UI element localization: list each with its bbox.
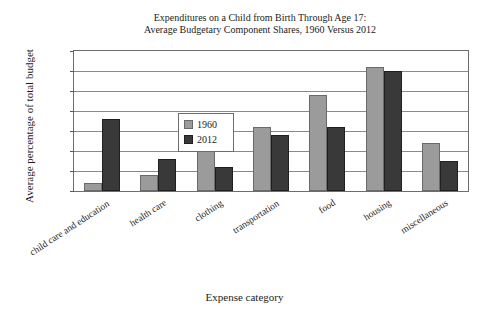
x-axis-category-label: food [317, 198, 337, 216]
x-axis-category-label: health care [128, 198, 168, 229]
bar-2012 [271, 135, 289, 191]
x-axis-category-label: child care and education [28, 198, 111, 257]
bar-1960 [422, 143, 440, 191]
bar-1960 [309, 95, 327, 191]
legend-label-1960: 1960 [197, 120, 217, 130]
bar-2012 [158, 159, 176, 191]
x-axis-title: Expense category [0, 291, 489, 303]
x-axis-category-label: miscellaneous [399, 198, 450, 236]
bar-2012 [440, 161, 458, 191]
chart-figure: Expenditures on a Child from Birth Throu… [0, 0, 489, 323]
chart-title-line-2: Average Budgetary Component Shares, 1960… [60, 24, 460, 36]
y-axis-tick-mark [70, 191, 74, 192]
legend-item-2012: 2012 [184, 132, 228, 147]
bar-2012 [215, 167, 233, 191]
legend-item-1960: 1960 [184, 117, 228, 132]
bar-group [355, 51, 411, 191]
bar-1960 [253, 127, 271, 191]
bar-1960 [366, 67, 384, 191]
bar-1960 [197, 147, 215, 191]
bar-2012 [102, 119, 120, 191]
bar-2012 [384, 71, 402, 191]
bar-groups [74, 51, 468, 191]
bar-1960 [84, 183, 102, 191]
legend-swatch-2012 [184, 135, 193, 144]
plot-area: 05101520253035 1960 2012 [73, 50, 469, 192]
chart-legend: 1960 2012 [178, 113, 234, 152]
bar-group [74, 51, 130, 191]
legend-label-2012: 2012 [197, 135, 217, 145]
y-axis-title: Average percentage of total budget [23, 31, 35, 221]
bar-group [412, 51, 468, 191]
x-axis-category-label: transportation [231, 198, 281, 235]
bar-group [243, 51, 299, 191]
chart-title-line-1: Expenditures on a Child from Birth Throu… [60, 12, 460, 24]
x-axis-category-label: housing [362, 198, 393, 223]
x-axis-category-label: clothing [193, 198, 225, 223]
bar-group [299, 51, 355, 191]
legend-swatch-1960 [184, 120, 193, 129]
bar-1960 [140, 175, 158, 191]
bar-2012 [327, 127, 345, 191]
chart-title: Expenditures on a Child from Birth Throu… [60, 12, 460, 36]
